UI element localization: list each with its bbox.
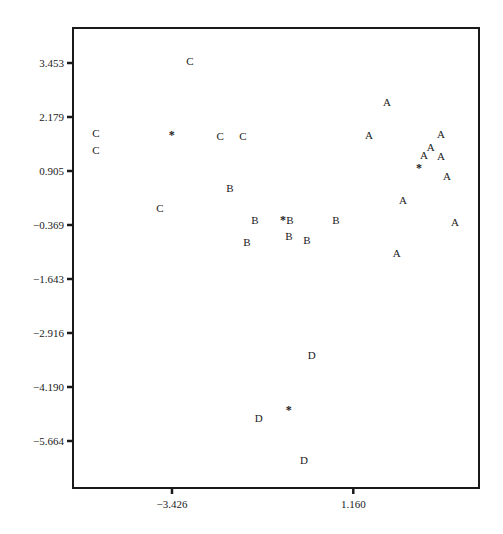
point-b: B: [226, 182, 233, 194]
y-tick-label: −4.190: [33, 381, 64, 393]
y-tick-label: 2.179: [39, 111, 64, 123]
data-points: AAAAAAAAAA*BBBBBBB*CCCCCC*DDD*: [92, 55, 459, 466]
centroid-c-star-icon: *: [169, 128, 175, 142]
point-a: A: [451, 216, 459, 228]
point-c: C: [92, 144, 99, 156]
point-c: C: [239, 130, 246, 142]
y-tick-label: 0.905: [39, 165, 64, 177]
point-b: B: [243, 236, 250, 248]
point-d: D: [300, 454, 308, 466]
y-tick-label: 3.453: [39, 57, 64, 69]
y-tick-label: −5.664: [33, 435, 64, 447]
point-d: D: [255, 412, 263, 424]
y-tick-label: −1.643: [33, 273, 64, 285]
x-tick-label: −3.426: [157, 498, 188, 510]
scatter-chart: 3.4532.1790.905−0.369−1.643−2.916−4.190−…: [0, 0, 503, 534]
centroid-b-star-icon: *: [280, 213, 286, 227]
point-a: A: [399, 194, 407, 206]
point-b: B: [251, 214, 258, 226]
point-c: C: [216, 130, 223, 142]
point-a: A: [383, 96, 391, 108]
centroid-d-star-icon: *: [286, 403, 292, 417]
point-c: C: [156, 202, 163, 214]
centroid-a-star-icon: *: [416, 161, 422, 175]
x-tick-label: 1.160: [341, 498, 366, 510]
point-a: A: [437, 150, 445, 162]
point-d: D: [308, 349, 316, 361]
y-axis: 3.4532.1790.905−0.369−1.643−2.916−4.190−…: [33, 57, 73, 447]
x-axis: −3.4261.160: [157, 488, 367, 510]
point-c: C: [92, 127, 99, 139]
plot-frame: [73, 28, 479, 488]
point-a: A: [437, 128, 445, 140]
point-a: A: [443, 170, 451, 182]
point-a: A: [365, 129, 373, 141]
point-b: B: [285, 230, 292, 242]
point-b: B: [332, 214, 339, 226]
y-tick-label: −2.916: [33, 327, 64, 339]
point-b: B: [303, 234, 310, 246]
y-tick-label: −0.369: [33, 219, 64, 231]
point-b: B: [286, 214, 293, 226]
point-c: C: [186, 55, 193, 67]
point-a: A: [420, 149, 428, 161]
point-a: A: [393, 247, 401, 259]
